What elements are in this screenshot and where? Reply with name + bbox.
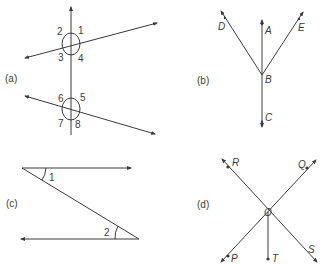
- panel-label-a: (a): [5, 73, 17, 84]
- point-label-R: R: [232, 157, 239, 168]
- panel-label-c: (c): [6, 198, 18, 209]
- panel-label-d: (d): [197, 199, 209, 210]
- point-label-C: C: [265, 112, 273, 123]
- geometry-figure: 1 2 3 4 5 6 7 8 (a) A B C D E (b) 1 2 (c…: [0, 0, 320, 264]
- angle-label-4: 4: [78, 53, 84, 64]
- point-P-dot: [226, 254, 229, 257]
- ray-BE: [262, 12, 303, 75]
- angle-label-3: 3: [58, 52, 64, 63]
- angle-label-6: 6: [58, 93, 64, 104]
- angle-label-8: 8: [75, 119, 81, 130]
- point-E-dot: [298, 18, 300, 20]
- angle-label-5: 5: [80, 92, 86, 103]
- angle-label-2: 2: [104, 227, 110, 238]
- point-Q-dot: [305, 166, 308, 169]
- point-A-dot: [261, 23, 263, 25]
- point-label-B: B: [265, 74, 272, 85]
- point-label-E: E: [298, 22, 305, 33]
- panel-label-b: (b): [197, 75, 209, 86]
- point-label-P: P: [231, 253, 238, 264]
- lower-line: [25, 96, 155, 134]
- point-D-dot: [224, 17, 226, 19]
- panel-d: O P Q R S T (d): [197, 157, 317, 264]
- panel-c: 1 2 (c): [6, 168, 139, 239]
- point-label-D: D: [218, 21, 225, 32]
- point-label-T: T: [272, 253, 279, 264]
- panel-b: A B C D E (b): [197, 11, 305, 127]
- point-C-dot: [261, 121, 263, 123]
- ray-BD: [221, 11, 262, 75]
- point-label-A: A: [264, 25, 272, 36]
- angle-label-1: 1: [49, 172, 55, 183]
- point-label-O: O: [264, 207, 272, 218]
- panel-a: 1 2 3 4 5 6 7 8 (a): [5, 7, 157, 135]
- angle-arc-2: [115, 226, 118, 239]
- angle-label-1: 1: [78, 25, 84, 36]
- point-label-Q: Q: [298, 159, 306, 170]
- upper-line: [25, 23, 157, 58]
- diagonal-line: [22, 168, 139, 239]
- point-label-S: S: [308, 244, 315, 255]
- angle-arc-1: [42, 168, 46, 180]
- angle-label-2: 2: [57, 26, 63, 37]
- point-T-dot: [266, 257, 269, 260]
- angle-label-7: 7: [58, 118, 64, 129]
- point-R-dot: [226, 165, 229, 168]
